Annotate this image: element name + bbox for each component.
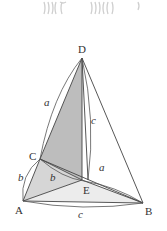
edge-label-EB: a — [99, 161, 105, 173]
vertex-label-C: C — [29, 150, 36, 162]
vertex-label-E: E — [83, 184, 90, 196]
edge-label-AB: c — [78, 208, 83, 220]
vertex-label-A: A — [15, 204, 23, 216]
edge-label-DE: c — [91, 114, 96, 126]
vertex-label-D: D — [78, 43, 86, 55]
header-ornament — [44, 2, 139, 14]
edge-label-DC: a — [44, 96, 50, 108]
edge-label-CA: b — [18, 171, 24, 183]
edge-label-CE: b — [50, 171, 56, 183]
vertex-label-B: B — [145, 205, 152, 217]
pyramid-diagram: D A B C E a c b b a c — [0, 0, 167, 231]
